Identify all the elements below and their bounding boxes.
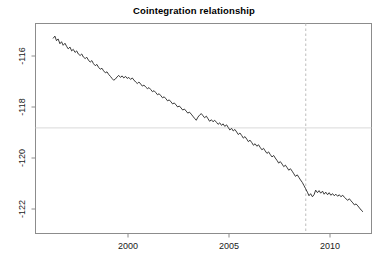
- plot-frame: [36, 24, 372, 234]
- x-axis-ticks: [128, 234, 330, 238]
- y-tick-label: -120: [17, 149, 27, 167]
- x-tick-label: 2010: [320, 241, 340, 251]
- data-line: [53, 36, 362, 211]
- y-axis-tick-labels: -116-118-120-122: [17, 47, 27, 218]
- x-tick-label: 2005: [219, 241, 239, 251]
- plot-border: [36, 24, 372, 234]
- y-tick-label: -118: [17, 98, 27, 115]
- cointegration-line-chart: -116-118-120-122 200020052010: [0, 0, 388, 269]
- chart-container: Cointegration relationship -116-118-120-…: [0, 0, 388, 269]
- series-layer: [53, 36, 362, 211]
- y-tick-label: -122: [17, 200, 27, 218]
- y-tick-label: -116: [17, 47, 27, 64]
- annotation-layer: [36, 24, 372, 234]
- x-tick-label: 2000: [118, 241, 138, 251]
- y-axis-ticks: [32, 56, 36, 209]
- x-axis-tick-labels: 200020052010: [118, 241, 340, 251]
